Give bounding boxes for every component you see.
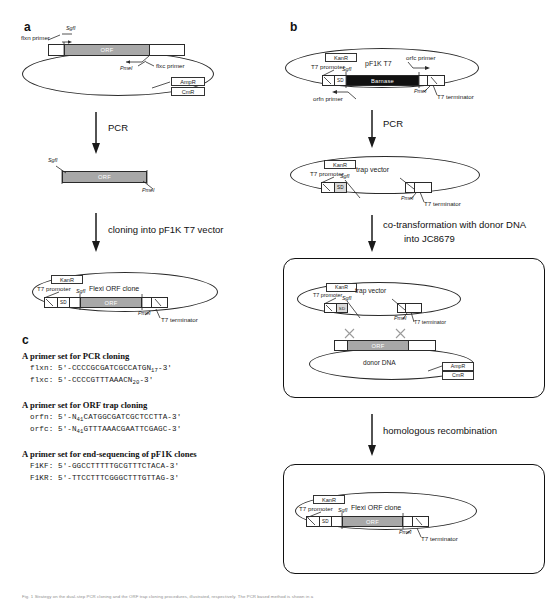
label-t7-terminator: T7 terminator — [421, 536, 458, 543]
panel-b-result-annotations — [0, 0, 554, 604]
label-t7-promoter: T7 promoter — [299, 506, 333, 513]
marker-kanr: KanR — [313, 495, 345, 504]
figure-caption: Fig. 1 Strategy on the dual-step PCR clo… — [22, 594, 313, 599]
label-sgfi-site: SgfI — [338, 508, 348, 513]
figure-root: a ORF flxn primer SgfI — [0, 0, 554, 604]
label-flexi-orf-clone: Flexi ORF clone — [351, 504, 401, 511]
label-pmei-site: PmeI — [399, 530, 412, 535]
